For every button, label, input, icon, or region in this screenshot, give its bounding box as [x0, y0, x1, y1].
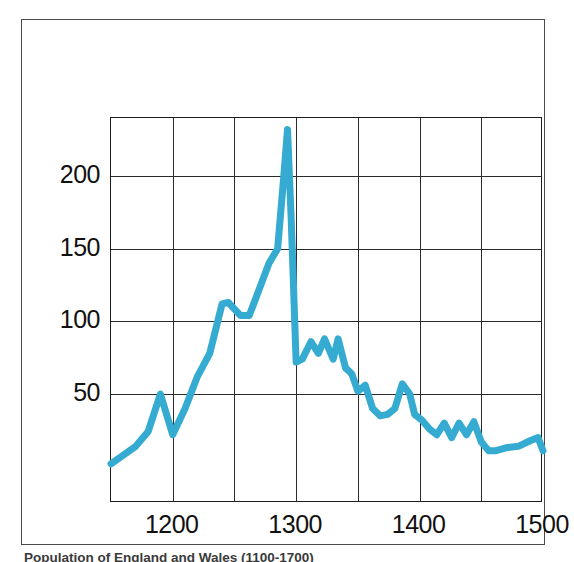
x-tick-label: 1500: [482, 512, 574, 537]
data-line: [111, 130, 543, 464]
plot-area: [110, 117, 542, 502]
figure-caption: Population of England and Wales (1100-17…: [24, 550, 544, 562]
x-tick-label: 1200: [112, 512, 232, 537]
line-series-svg: [111, 118, 543, 503]
x-tick-label: 1300: [235, 512, 355, 537]
x-tick-label: 1400: [359, 512, 479, 537]
figure-frame: 50100150200 1200130014001500: [21, 19, 545, 545]
